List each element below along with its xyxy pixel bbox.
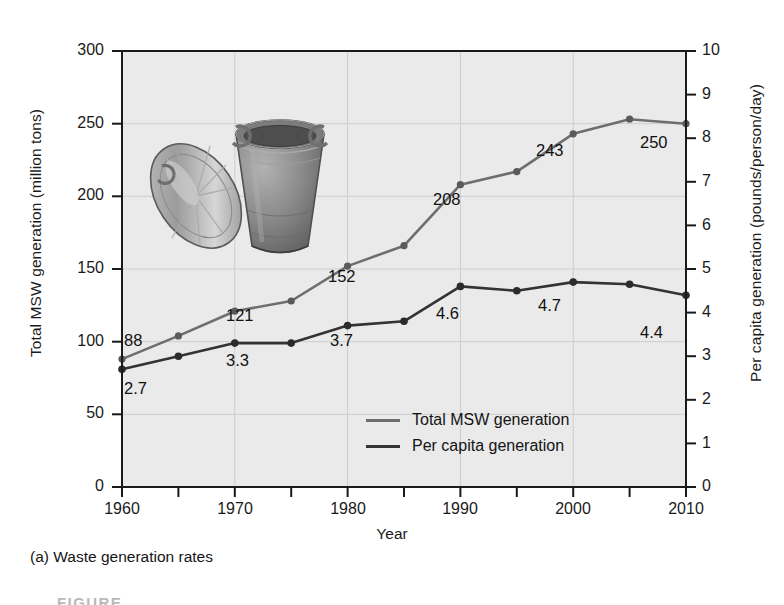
figure-subcaption: (a) Waste generation rates bbox=[30, 548, 213, 566]
y-left-tick-0: 0 bbox=[46, 477, 104, 495]
y-right-tick-0: 0 bbox=[702, 477, 760, 495]
data-label-percapita-1990: 4.6 bbox=[436, 304, 459, 323]
x-axis-ticks bbox=[122, 487, 686, 497]
data-label-total-1990: 208 bbox=[433, 190, 461, 209]
y-axis-left-title: Total MSW generation (million tons) bbox=[27, 53, 45, 413]
x-tick-1980: 1980 bbox=[313, 500, 383, 518]
data-label-total-1960: 88 bbox=[124, 331, 142, 350]
legend-item-per-capita: Per capita generation bbox=[366, 433, 569, 459]
x-axis-title: Year bbox=[0, 525, 784, 543]
y-left-tick-50: 50 bbox=[46, 404, 104, 422]
y-left-tick-150: 150 bbox=[46, 259, 104, 277]
data-label-percapita-2000: 4.7 bbox=[538, 296, 561, 315]
data-label-total-2010: 250 bbox=[640, 133, 668, 152]
data-label-percapita-1980: 3.7 bbox=[330, 331, 353, 350]
y-right-tick-1: 1 bbox=[702, 434, 760, 452]
data-label-percapita-1960: 2.7 bbox=[124, 379, 147, 398]
x-tick-2000: 2000 bbox=[538, 500, 608, 518]
data-label-total-1980: 152 bbox=[328, 267, 356, 286]
chart-legend: Total MSW generation Per capita generati… bbox=[366, 407, 569, 459]
legend-item-total-msw: Total MSW generation bbox=[366, 407, 569, 433]
y-axis-right-title: Per capita generation (pounds/person/day… bbox=[747, 43, 765, 423]
legend-swatch-per-capita bbox=[366, 445, 400, 448]
x-tick-1960: 1960 bbox=[87, 500, 157, 518]
data-label-total-1970: 121 bbox=[226, 306, 254, 325]
figure-word-partial: FIGURE bbox=[57, 594, 122, 605]
y-left-ticks bbox=[112, 51, 122, 487]
data-label-total-2000: 243 bbox=[536, 141, 564, 160]
x-tick-1990: 1990 bbox=[425, 500, 495, 518]
legend-label-per-capita: Per capita generation bbox=[412, 437, 564, 455]
figure-container: 300 250 200 150 100 50 0 10 9 8 7 6 5 4 … bbox=[0, 0, 784, 605]
y-left-tick-100: 100 bbox=[46, 332, 104, 350]
legend-swatch-total-msw bbox=[366, 419, 400, 422]
data-label-percapita-1970: 3.3 bbox=[226, 351, 249, 370]
y-left-tick-250: 250 bbox=[46, 114, 104, 132]
x-tick-2010: 2010 bbox=[651, 500, 721, 518]
y-left-tick-300: 300 bbox=[46, 41, 104, 59]
data-label-percapita-2010: 4.4 bbox=[640, 323, 663, 342]
y-right-ticks bbox=[686, 51, 696, 487]
x-tick-1970: 1970 bbox=[200, 500, 270, 518]
legend-label-total-msw: Total MSW generation bbox=[412, 411, 569, 429]
y-left-tick-200: 200 bbox=[46, 186, 104, 204]
